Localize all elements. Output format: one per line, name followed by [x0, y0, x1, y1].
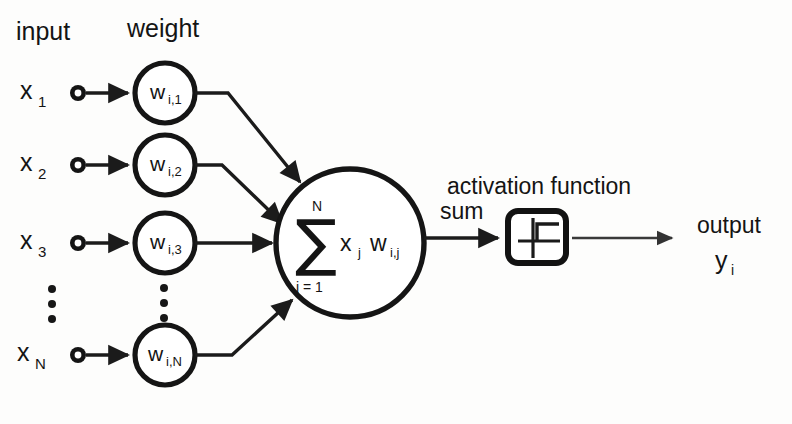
neuron-diagram-canvas: input weight x 1 w i,1 x 2 w i,2: [0, 0, 792, 424]
weight-to-sum-edge-2: [195, 165, 282, 223]
sum-label: sum: [440, 198, 483, 224]
weight-label-3-sub: i,3: [168, 242, 182, 257]
input-row-2: x 2 w i,2: [20, 135, 282, 223]
formula-w-base: w: [369, 230, 387, 256]
input-label-4-sub: N: [35, 355, 46, 372]
input-label-2-base: x: [20, 148, 33, 176]
weight-ellipsis: [160, 284, 168, 322]
weight-node-4[interactable]: [135, 325, 195, 385]
weight-label-3-base: w: [149, 230, 166, 253]
neuron-diagram-svg: input weight x 1 w i,1 x 2 w i,2: [0, 0, 792, 424]
formula-w-sub: i,j: [390, 245, 400, 260]
weight-label-2-base: w: [149, 152, 166, 175]
activation-function-label: activation function: [447, 173, 631, 199]
formula-x-base: x: [340, 230, 352, 256]
header-input: input: [16, 17, 70, 45]
input-label-3-base: x: [20, 226, 33, 254]
input-label-4-base: x: [17, 338, 30, 366]
output-var-sub: i: [731, 262, 734, 278]
sigma-upper-limit: N: [312, 198, 322, 214]
input-port-dot-2-hole: [75, 162, 82, 169]
input-port-dot-4-hole: [75, 352, 82, 359]
weight-to-sum-edge-1: [195, 93, 300, 182]
input-ellipsis: [48, 285, 56, 323]
sigma-lower-limit: j = 1: [295, 279, 323, 295]
sigma-symbol: ∑: [295, 206, 337, 279]
activation-function-box[interactable]: [508, 211, 566, 263]
input-port-dot-1-hole: [75, 90, 82, 97]
formula-x-sub: j: [357, 245, 361, 260]
weight-to-sum-edge-4: [195, 300, 292, 355]
input-label-2-sub: 2: [38, 165, 46, 182]
input-port-dot-3-hole: [75, 240, 82, 247]
weight-label-1-base: w: [149, 80, 166, 103]
weight-label-4-base: w: [147, 342, 164, 365]
output-label: output: [697, 212, 762, 238]
output-var-base: y: [715, 246, 728, 274]
input-row-3: x 3 w i,3: [20, 213, 272, 273]
input-label-1-sub: 1: [38, 93, 46, 110]
input-label-3-sub: 3: [38, 243, 46, 260]
weight-label-1-sub: i,1: [168, 92, 182, 107]
input-row-4: x N w i,N: [17, 300, 292, 385]
weight-label-2-sub: i,2: [168, 164, 182, 179]
input-label-1-base: x: [20, 76, 33, 104]
header-weight: weight: [126, 14, 199, 42]
weight-label-4-sub: i,N: [166, 354, 182, 369]
summation-node[interactable]: ∑ N j = 1 x j w i,j: [276, 169, 424, 317]
